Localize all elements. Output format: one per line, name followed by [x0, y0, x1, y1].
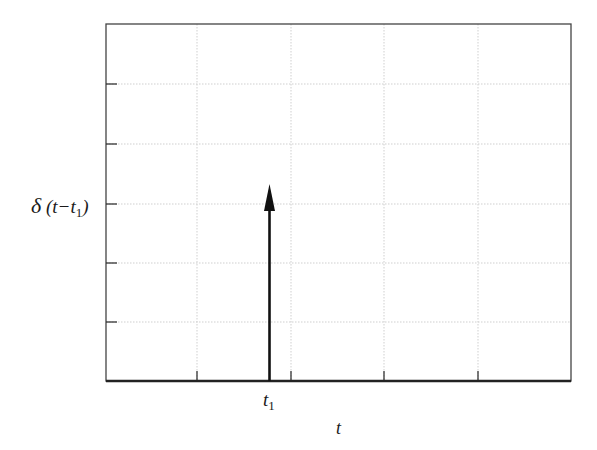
x-ticks: [197, 371, 478, 381]
x-axis-label: t: [336, 418, 341, 439]
impulse-arrow: [264, 184, 275, 381]
arrowhead-icon: [264, 184, 275, 211]
grid-lines: [106, 24, 571, 381]
plot-frame: [106, 24, 571, 381]
x-tick-label-t1: t1: [263, 389, 275, 414]
y-ticks: [106, 84, 117, 322]
chart-canvas: [0, 0, 597, 450]
y-axis-label: δ (t−t1): [31, 193, 89, 221]
